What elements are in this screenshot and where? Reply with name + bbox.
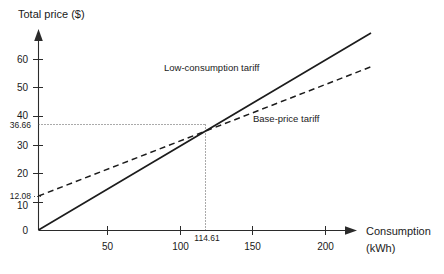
series-label-low-consumption-tariff: Low-consumption tariff bbox=[164, 62, 260, 73]
y-tick-label-30: 30 bbox=[17, 140, 29, 151]
y-axis-title: Total price ($) bbox=[18, 8, 85, 20]
x-tick-label-114-61: 114.61 bbox=[194, 233, 220, 243]
y-tick-label-36-66: 36.66 bbox=[10, 120, 32, 130]
y-tick-label-20: 20 bbox=[17, 168, 29, 179]
x-axis-title-line1: Consumption bbox=[366, 225, 431, 237]
x-tick-label-50: 50 bbox=[102, 241, 114, 252]
y-tick-label-60: 60 bbox=[17, 54, 29, 65]
y-tick-label-0: 0 bbox=[22, 225, 28, 236]
chart-text-layer: Total price ($) 60 50 40 36.66 30 20 12.… bbox=[0, 0, 444, 274]
tariff-comparison-chart: Total price ($) 60 50 40 36.66 30 20 12.… bbox=[0, 0, 444, 274]
x-tick-label-100: 100 bbox=[172, 241, 189, 252]
x-tick-label-200: 200 bbox=[317, 241, 334, 252]
x-axis-title-line2: (kWh) bbox=[366, 242, 395, 254]
series-label-base-price-tariff: Base-price tariff bbox=[253, 113, 320, 124]
y-tick-label-50: 50 bbox=[17, 82, 29, 93]
x-tick-label-150: 150 bbox=[244, 241, 261, 252]
y-tick-label-10: 10 bbox=[17, 200, 29, 211]
